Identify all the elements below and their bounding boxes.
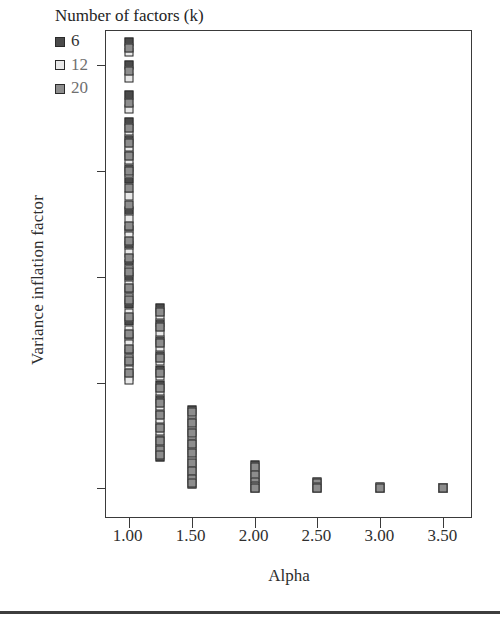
data-point [124,221,133,230]
data-point [156,398,165,407]
data-point [124,369,133,378]
x-axis-title: Alpha [105,566,473,586]
data-point [124,357,133,366]
data-point [124,151,133,160]
data-point [124,99,133,108]
x-tick-label: 2.00 [219,526,289,546]
data-point [124,344,133,353]
legend-swatch-icon [55,60,65,70]
data-point [187,439,196,448]
data-point [124,295,133,304]
legend-entry-label: 6 [71,30,80,52]
data-point [124,139,133,148]
y-tick-mark [97,488,106,489]
data-point [156,323,165,332]
data-point [156,424,165,433]
legend-swatch-icon [55,37,65,47]
x-tick-label: 3.50 [407,526,477,546]
legend-swatch-icon [55,84,65,94]
data-canvas [106,31,471,517]
data-point [250,484,259,493]
legend-title: Number of factors (k) [55,5,204,27]
data-point [124,329,133,338]
data-point [124,200,133,209]
legend-entry: 6 [55,30,204,52]
data-point [156,450,165,459]
x-tick-label: 1.00 [93,526,163,546]
data-point [187,418,196,427]
data-point [124,268,133,277]
data-point [156,436,165,445]
data-point [124,166,133,175]
data-point [187,449,196,458]
data-point [187,429,196,438]
x-tick-label: 1.50 [156,526,226,546]
footer-rule [0,611,500,614]
y-tick-mark [97,277,106,278]
data-point [313,484,322,493]
figure: Variance inflation factor 21161161 1.001… [0,0,500,629]
y-axis-title: Variance inflation factor [28,150,48,410]
data-point [376,483,385,492]
data-point [156,354,165,363]
legend: Number of factors (k) 61220 [55,5,204,100]
legend-entry: 12 [55,54,204,76]
data-point [156,383,165,392]
data-point [124,183,133,192]
y-tick-mark [97,171,106,172]
data-point [124,253,133,262]
data-point [124,312,133,321]
x-tick-label: 3.00 [344,526,414,546]
plot-area [105,30,472,518]
data-point [439,484,448,493]
data-point [187,479,196,488]
data-point [124,124,133,133]
legend-entries: 61220 [55,30,204,99]
data-point [156,339,165,348]
legend-entry-label: 12 [71,54,88,76]
data-point [156,369,165,378]
x-tick-label: 2.50 [281,526,351,546]
legend-entry-label: 20 [71,77,88,99]
y-tick-mark [97,383,106,384]
data-point [156,307,165,316]
data-point [124,236,133,245]
data-point [187,408,196,417]
data-point [156,411,165,420]
legend-entry: 20 [55,77,204,99]
data-point [124,284,133,293]
